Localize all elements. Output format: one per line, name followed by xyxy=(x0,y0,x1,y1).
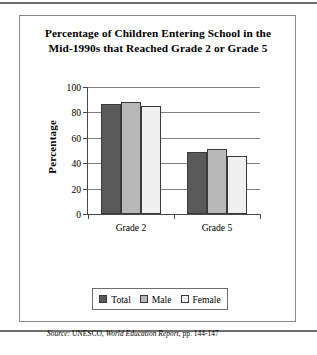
chart-legend: Total Male Female xyxy=(92,288,228,310)
y-tick-label-0: 0 xyxy=(55,209,81,220)
x-category-label-grade-5: Grade 5 xyxy=(202,222,233,233)
figure-border-box: Percentage of Children Entering School i… xyxy=(19,15,296,322)
legend-swatch-male xyxy=(140,295,148,303)
x-tick-1 xyxy=(174,214,175,219)
legend-item-total: Total xyxy=(99,294,131,305)
chart-title-line-2: Mid-1990s that Reached Grade 2 or Grade … xyxy=(30,41,286,56)
legend-label-male: Male xyxy=(152,294,172,305)
y-tick-label-40: 40 xyxy=(55,158,81,169)
bar-group-grade-5 xyxy=(187,87,247,214)
chart-title: Percentage of Children Entering School i… xyxy=(30,26,286,55)
source-publication: World Education Report xyxy=(106,329,179,338)
bar-male-grade-5[interactable] xyxy=(207,149,227,214)
x-category-label-grade-2: Grade 2 xyxy=(116,222,147,233)
legend-item-male: Male xyxy=(140,294,172,305)
source-prefix: Source: xyxy=(47,329,70,338)
bar-female-grade-5[interactable] xyxy=(227,156,247,214)
top-divider-rule xyxy=(0,2,317,4)
bar-series-group xyxy=(88,87,260,214)
legend-item-female: Female xyxy=(181,294,221,305)
legend-swatch-female xyxy=(181,295,189,303)
plot-area: 020406080100 Grade 2Grade 5 xyxy=(87,87,260,215)
x-tick-0 xyxy=(88,214,89,219)
legend-label-female: Female xyxy=(193,294,221,305)
figure-page: Percentage of Children Entering School i… xyxy=(0,0,317,355)
source-citation: Source: UNESCO, World Education Report, … xyxy=(47,329,219,338)
chart-title-line-1: Percentage of Children Entering School i… xyxy=(30,26,286,41)
y-tick-label-80: 80 xyxy=(55,107,81,118)
legend-label-total: Total xyxy=(111,294,131,305)
source-organization: UNESCO, xyxy=(72,329,104,338)
bar-total-grade-2[interactable] xyxy=(101,104,121,214)
bar-total-grade-5[interactable] xyxy=(187,152,207,214)
y-tick-label-100: 100 xyxy=(55,82,81,93)
x-tick-end xyxy=(260,214,261,219)
bar-female-grade-2[interactable] xyxy=(141,106,161,214)
source-pages: , pp. 144-147 xyxy=(179,329,219,338)
y-tick-label-60: 60 xyxy=(55,132,81,143)
y-tick-label-20: 20 xyxy=(55,183,81,194)
legend-swatch-total xyxy=(99,295,107,303)
bar-male-grade-2[interactable] xyxy=(121,102,141,214)
bar-group-grade-2 xyxy=(101,87,161,214)
